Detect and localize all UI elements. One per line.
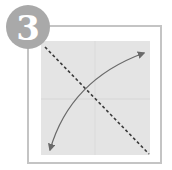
step-number: 3 [16,11,40,45]
step-number-badge: 3 [6,5,50,49]
valley-fold-dashed-line [45,47,149,154]
